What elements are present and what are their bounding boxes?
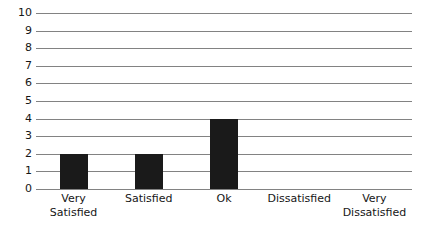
bar[interactable]	[135, 154, 163, 189]
x-axis-tick-label-line: Dissatisfied	[262, 192, 337, 206]
x-axis-tick-label-line: Very	[36, 192, 111, 206]
y-axis-tick-label: 9	[2, 25, 32, 36]
x-axis-tick-label-line: Satisfied	[36, 206, 111, 220]
y-axis-tick-label: 7	[2, 60, 32, 71]
bar-slot	[262, 13, 337, 189]
bar-slot	[111, 13, 186, 189]
x-axis-tick-label: Dissatisfied	[262, 192, 337, 206]
y-axis-tick-label: 4	[2, 113, 32, 124]
x-axis-tick-label-line: Dissatisfied	[337, 206, 412, 220]
y-axis-tick-label: 3	[2, 130, 32, 141]
bar[interactable]	[60, 154, 88, 189]
y-axis-tick-label: 0	[2, 183, 32, 194]
bar[interactable]	[210, 119, 238, 189]
bars-layer	[36, 13, 412, 189]
y-axis-tick-label: 6	[2, 77, 32, 88]
bar-slot	[186, 13, 261, 189]
x-axis-tick-label: VeryDissatisfied	[337, 192, 412, 220]
y-axis-tick-label: 8	[2, 42, 32, 53]
bar-slot	[36, 13, 111, 189]
y-axis-tick-labels: 109876543210	[0, 13, 32, 189]
y-axis-tick-label: 2	[2, 148, 32, 159]
x-axis-tick-label: Satisfied	[111, 192, 186, 206]
y-axis-tick-label: 1	[2, 165, 32, 176]
y-axis-tick-label: 10	[2, 7, 32, 18]
y-axis-tick-label: 5	[2, 95, 32, 106]
x-axis-tick-label-line: Satisfied	[111, 192, 186, 206]
x-axis-tick-labels: VerySatisfiedSatisfiedOkDissatisfiedVery…	[36, 192, 412, 230]
x-axis-tick-label-line: Ok	[186, 192, 261, 206]
bar-chart: 109876543210 VerySatisfiedSatisfiedOkDis…	[0, 0, 431, 230]
bar-slot	[337, 13, 412, 189]
x-axis-tick-label: Ok	[186, 192, 261, 206]
x-axis-tick-label: VerySatisfied	[36, 192, 111, 220]
gridline	[36, 189, 412, 190]
x-axis-tick-label-line: Very	[337, 192, 412, 206]
